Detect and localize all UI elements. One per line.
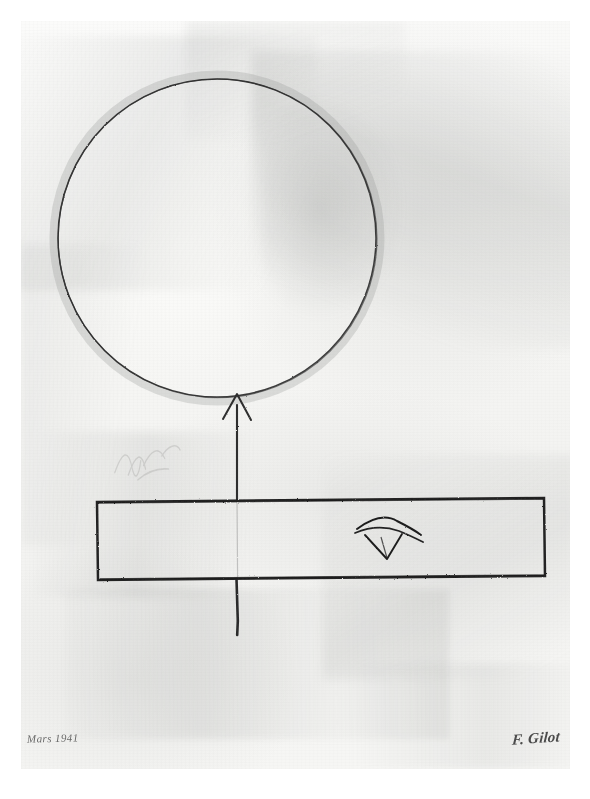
arrow-shape [223, 394, 251, 635]
artist-signature: F. Gilot [511, 728, 560, 748]
artwork-canvas: Mars 1941 F. Gilot [0, 0, 590, 799]
circle-halo [54, 75, 380, 401]
eye-glyph [355, 518, 423, 559]
date-inscription: Mars 1941 [27, 731, 79, 744]
paper-sheet: Mars 1941 F. Gilot [21, 21, 570, 769]
circle-shape [58, 79, 377, 398]
bar-shape [97, 498, 545, 580]
drawing-layer [21, 21, 570, 769]
